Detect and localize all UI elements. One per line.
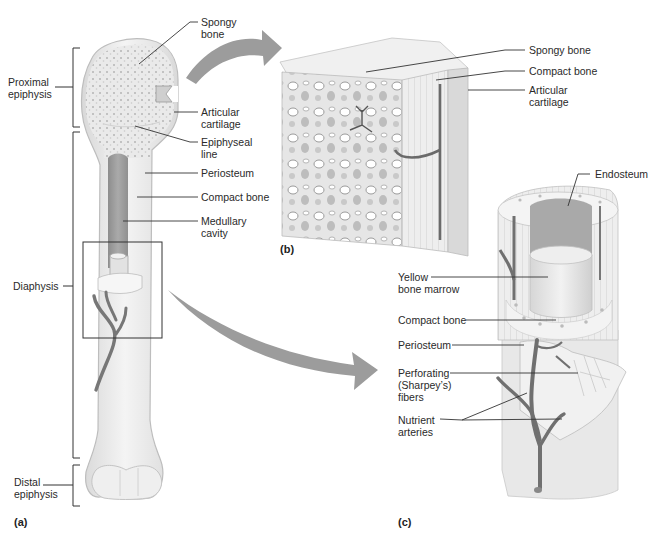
panel-letter-b: (b): [280, 243, 294, 255]
label-perforating-fibers: Perforating (Sharpey’s) fibers: [398, 367, 452, 403]
label-periosteum-c: Periosteum: [398, 339, 451, 351]
label-compact-bone-a: Compact bone: [201, 191, 269, 203]
panel-c-section: [498, 186, 626, 499]
label-epiphyseal-line: Epiphyseal line: [201, 136, 252, 160]
long-bone-diagram: Proximal epiphysis Diaphysis Distal epip…: [0, 0, 658, 542]
label-yellow-bone-marrow: Yellow bone marrow: [398, 271, 459, 295]
label-compact-bone-c: Compact bone: [398, 314, 466, 326]
brackets-a: [43, 48, 80, 506]
panel-a-bone: [81, 39, 178, 500]
label-spongy-bone-a: Spongy bone: [201, 16, 237, 40]
label-periosteum-a: Periosteum: [201, 167, 254, 179]
label-nutrient-arteries: Nutrient arteries: [398, 414, 435, 438]
panel-letter-c: (c): [398, 516, 411, 528]
panel-letter-a: (a): [14, 516, 27, 528]
label-diaphysis: Diaphysis: [13, 280, 59, 292]
label-proximal-epiphysis: Proximal epiphysis: [8, 76, 52, 100]
label-articular-cartilage-b: Articular cartilage: [529, 84, 569, 108]
label-compact-bone-b: Compact bone: [529, 65, 597, 77]
label-distal-epiphysis: Distal epiphysis: [14, 476, 58, 500]
label-spongy-bone-b: Spongy bone: [529, 44, 591, 56]
label-articular-cartilage-a: Articular cartilage: [201, 106, 241, 130]
arrow-to-c: [168, 290, 378, 390]
label-medullary-cavity: Medullary cavity: [201, 215, 247, 239]
label-endosteum: Endosteum: [595, 168, 648, 180]
